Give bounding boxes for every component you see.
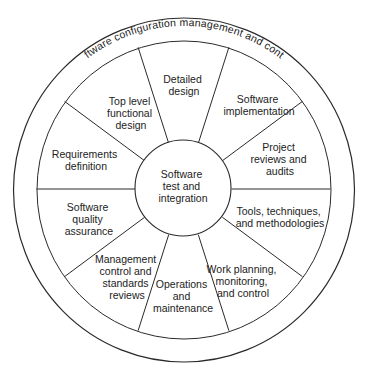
- center-label-line: integration: [158, 192, 207, 204]
- segment-top-level-design: Top level functional design: [107, 95, 155, 131]
- segment-label-line: definition: [65, 160, 107, 172]
- segment-project-reviews: Project reviews and audits: [251, 141, 310, 177]
- segment-detailed-design: Detailed design: [163, 73, 204, 97]
- segment-software-implementation: Software implementation: [223, 93, 294, 117]
- segment-label-line: Tools, techniques,: [237, 205, 321, 217]
- wheel-svg: Software configuration management and co…: [0, 0, 365, 372]
- segment-label-line: Operations: [156, 278, 207, 290]
- segment-label-line: assurance: [65, 225, 114, 237]
- segment-label-line: monitoring,: [216, 275, 268, 287]
- segment-tools-techniques: Tools, techniques, and methodologies: [236, 205, 325, 229]
- segment-label-line: design: [169, 85, 200, 97]
- segment-label-line: and methodologies: [236, 217, 325, 229]
- segment-label-line: reviews and: [251, 153, 307, 165]
- segment-label-line: and: [173, 290, 191, 302]
- segment-label-line: implementation: [223, 105, 294, 117]
- segment-label-line: and control: [217, 287, 269, 299]
- segment-requirements-definition: Requirements definition: [52, 148, 120, 172]
- segment-label-line: design: [116, 119, 147, 131]
- segment-label-line: Requirements: [52, 148, 117, 160]
- segment-label-line: maintenance: [153, 302, 213, 314]
- segment-label-line: quality: [72, 213, 103, 225]
- center-label-line: test and: [163, 180, 201, 192]
- spoke-divider: [198, 47, 229, 143]
- segment-software-quality: Software quality assurance: [65, 201, 114, 237]
- center-label-line: Software: [161, 168, 203, 180]
- segment-label-line: Detailed: [163, 73, 202, 85]
- segment-label-line: Software: [237, 93, 279, 105]
- segment-label-line: standards: [102, 277, 148, 289]
- segment-label-line: control and: [100, 265, 152, 277]
- segment-label-line: functional: [107, 107, 152, 119]
- outer-ring-label-text: Software configuration management and co…: [0, 0, 287, 61]
- outer-ring-label: Software configuration management and co…: [0, 0, 287, 61]
- segment-label-line: Software: [67, 201, 109, 213]
- segment-label-line: audits: [266, 165, 294, 177]
- segment-operations-maintenance: Operations and maintenance: [153, 278, 213, 314]
- segment-label-line: Work planning,: [207, 263, 277, 275]
- segment-work-planning: Work planning, monitoring, and control: [207, 263, 280, 299]
- segment-label-line: Project: [262, 141, 295, 153]
- segment-label-line: Top level: [109, 95, 150, 107]
- center-label: Software test and integration: [158, 168, 207, 204]
- segment-label-line: reviews: [109, 289, 145, 301]
- segment-label-line: Management: [95, 253, 156, 265]
- software-lifecycle-wheel-diagram: Software configuration management and co…: [0, 0, 365, 372]
